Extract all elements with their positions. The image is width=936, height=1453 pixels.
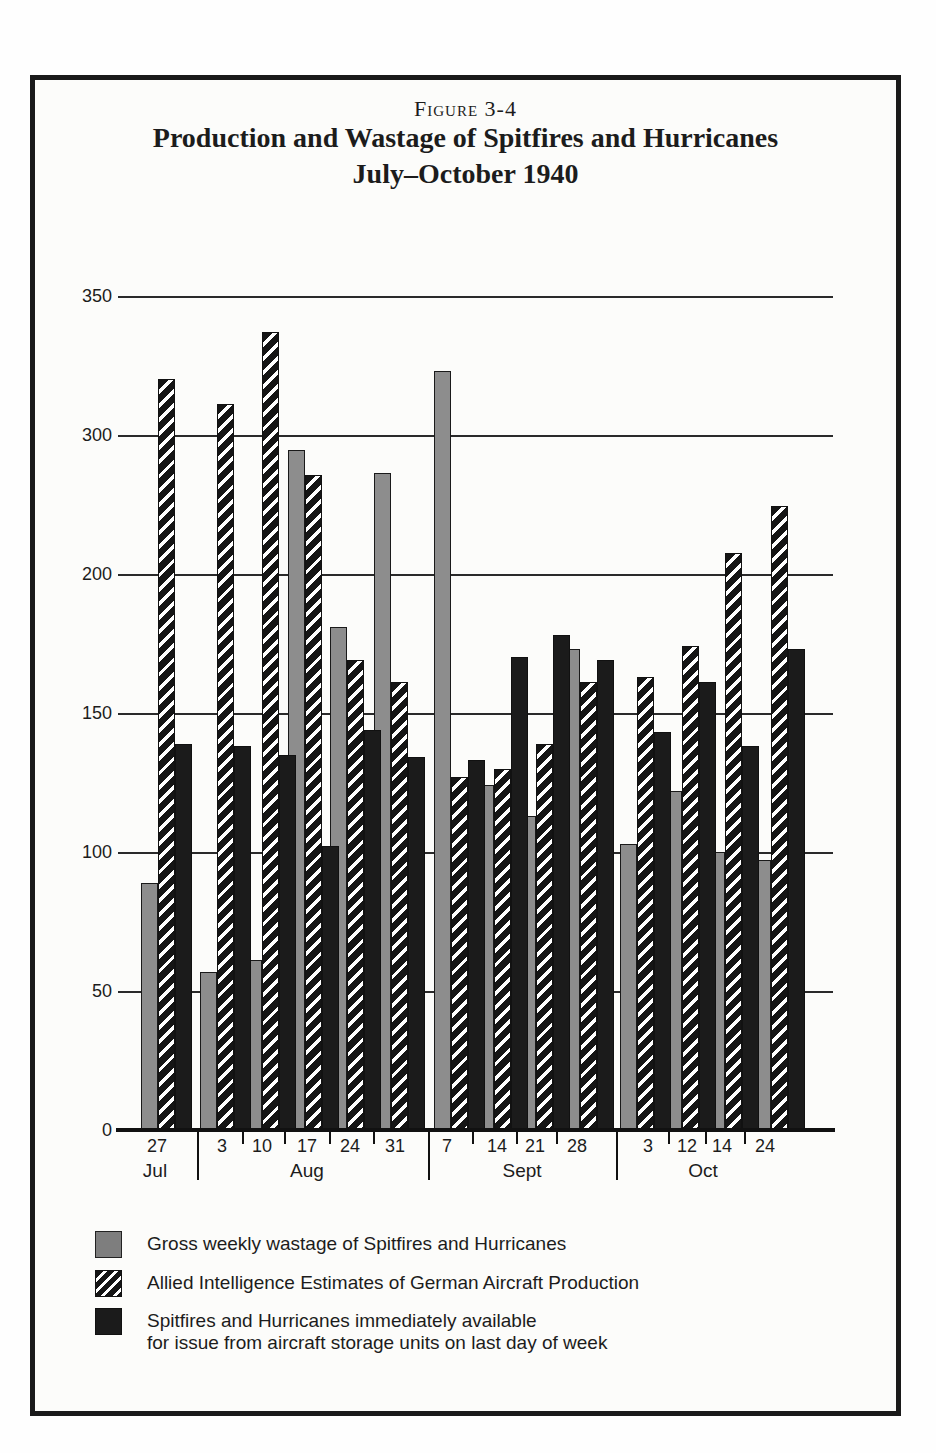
y-gridline: [118, 296, 833, 298]
y-axis-tick-label: 50: [52, 981, 112, 1002]
bar-black-3-oct: [654, 732, 671, 1130]
bar-hatched-24-aug: [347, 660, 364, 1130]
month-divider-line: [428, 1128, 430, 1180]
x-axis-week-label: 27: [147, 1136, 167, 1157]
bar-black-7-sept: [468, 760, 485, 1130]
bar-hatched-3-aug: [217, 404, 234, 1130]
x-axis-baseline: [116, 1128, 835, 1132]
legend-label-available-line1: Spitfires and Hurricanes immediately ava…: [147, 1310, 607, 1332]
y-axis-tick-label: 300: [52, 425, 112, 446]
bar-black-24-aug: [364, 730, 381, 1130]
bar-hatched-3-oct: [637, 677, 654, 1130]
figure-number-label: Figure 3-4: [30, 96, 901, 122]
week-tick: [516, 1128, 518, 1144]
bar-hatched-28-sept: [580, 682, 597, 1130]
x-axis-week-label: 24: [340, 1136, 360, 1157]
bar-hatched-24-oct: [771, 506, 788, 1130]
x-axis-week-label: 7: [442, 1136, 452, 1157]
legend-item-estimates: Allied Intelligence Estimates of German …: [95, 1270, 639, 1297]
week-tick: [373, 1128, 375, 1144]
x-axis-month-label: Oct: [688, 1160, 718, 1182]
figure-title-line1: Production and Wastage of Spitfires and …: [30, 122, 901, 154]
bar-black-14-sept: [511, 657, 528, 1130]
bar-black-28-sept: [597, 660, 614, 1130]
gray-swatch-icon: [95, 1231, 122, 1258]
bar-black-14-oct: [742, 746, 759, 1130]
legend-item-available: Spitfires and Hurricanes immediately ava…: [95, 1308, 607, 1354]
bar-hatched-14-sept: [494, 769, 511, 1130]
bar-gray-3-aug: [200, 972, 217, 1130]
week-tick: [705, 1128, 707, 1144]
hatched-swatch-icon: [95, 1270, 122, 1297]
x-axis-week-label: 3: [217, 1136, 227, 1157]
x-axis-week-label: 24: [755, 1136, 775, 1157]
bar-hatched-27-jul: [158, 379, 175, 1130]
bar-black-17-aug: [322, 846, 339, 1130]
week-tick: [556, 1128, 558, 1144]
bar-black-21-sept: [553, 635, 570, 1130]
x-axis-week-label: 28: [567, 1136, 587, 1157]
x-axis-month-label: Aug: [290, 1160, 324, 1182]
week-tick: [744, 1128, 746, 1144]
week-tick: [668, 1128, 670, 1144]
figure-title-line2: July–October 1940: [30, 158, 901, 190]
x-axis-week-label: 12: [677, 1136, 697, 1157]
bar-gray-3-oct: [620, 844, 637, 1130]
legend-item-wastage: Gross weekly wastage of Spitfires and Hu…: [95, 1231, 566, 1258]
x-axis-week-label: 14: [712, 1136, 732, 1157]
week-tick: [329, 1128, 331, 1144]
y-axis-tick-label: 100: [52, 842, 112, 863]
bar-gray-7-sept: [434, 371, 451, 1130]
bar-hatched-10-aug: [262, 332, 279, 1130]
week-tick: [284, 1128, 286, 1144]
bar-hatched-14-oct: [725, 553, 742, 1130]
week-tick: [242, 1128, 244, 1144]
bar-black-24-oct: [788, 649, 805, 1130]
y-axis-tick-label: 150: [52, 703, 112, 724]
bar-gray-27-jul: [141, 883, 158, 1130]
x-axis-month-label: Sept: [502, 1160, 541, 1182]
scanned-page: Figure 3-4 Production and Wastage of Spi…: [0, 0, 936, 1453]
bar-hatched-31-aug: [391, 682, 408, 1130]
x-axis-week-label: 10: [252, 1136, 272, 1157]
bar-hatched-17-aug: [305, 475, 322, 1130]
y-axis-tick-label: 350: [52, 286, 112, 307]
bar-black-31-aug: [408, 757, 425, 1130]
month-divider-line: [197, 1128, 199, 1180]
y-axis-tick-label: 200: [52, 564, 112, 585]
bar-black-27-jul: [175, 744, 192, 1130]
y-axis-tick-label: 0: [52, 1120, 112, 1141]
x-axis-week-label: 3: [643, 1136, 653, 1157]
black-swatch-icon: [95, 1308, 122, 1335]
x-axis-week-label: 31: [385, 1136, 405, 1157]
bar-black-12-oct: [699, 682, 716, 1130]
legend-label-available: Spitfires and Hurricanes immediately ava…: [147, 1308, 607, 1354]
legend-label-estimates: Allied Intelligence Estimates of German …: [147, 1270, 639, 1294]
legend-label-wastage: Gross weekly wastage of Spitfires and Hu…: [147, 1231, 566, 1255]
x-axis-week-label: 21: [525, 1136, 545, 1157]
x-axis-week-label: 14: [487, 1136, 507, 1157]
legend-label-available-line2: for issue from aircraft storage units on…: [147, 1332, 607, 1354]
week-tick: [472, 1128, 474, 1144]
bar-black-3-aug: [234, 746, 251, 1130]
month-divider-line: [616, 1128, 618, 1180]
bar-hatched-21-sept: [536, 744, 553, 1130]
bar-hatched-12-oct: [682, 646, 699, 1130]
x-axis-week-label: 17: [297, 1136, 317, 1157]
x-axis-month-label: Jul: [143, 1160, 167, 1182]
bar-black-10-aug: [279, 755, 296, 1130]
bar-hatched-7-sept: [451, 777, 468, 1130]
